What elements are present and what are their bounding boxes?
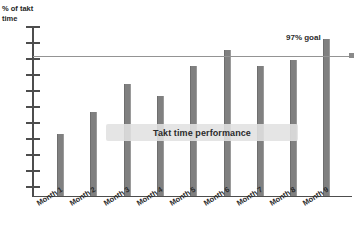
series-banner-label: Takt time performance xyxy=(153,128,251,138)
bar xyxy=(323,39,330,196)
bar xyxy=(90,112,97,196)
goal-line-label: 97% goal xyxy=(286,33,321,42)
takt-time-performance-chart: % of takt time 97% goal Takt time perfor… xyxy=(0,0,358,235)
series-banner: Takt time performance xyxy=(106,124,298,141)
goal-line xyxy=(33,56,351,58)
bar xyxy=(157,96,164,196)
goal-line-endpoint-marker xyxy=(349,53,354,58)
